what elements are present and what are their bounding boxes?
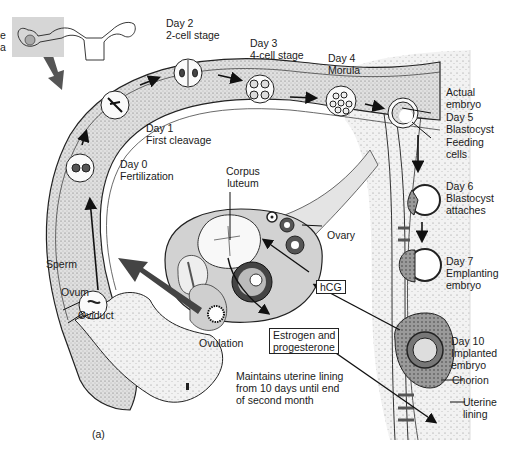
label-day4: Day 4Morula: [328, 52, 360, 76]
label-day10: Day 10Implanted embryo: [451, 335, 497, 371]
label-sperm: Sperm: [46, 258, 77, 270]
label-hcg: hCG: [316, 280, 346, 294]
diagram-canvas: e a Day 0Fertilization Day 1First cleava…: [0, 0, 511, 454]
label-chorion: Chorion: [452, 374, 489, 386]
label-day5: Day 5Blastocyst: [446, 111, 494, 135]
label-uterine-lining: Uterine lining: [463, 396, 497, 420]
label-day0: Day 0Fertilization: [120, 158, 174, 182]
label-day2: Day 22-cell stage: [166, 17, 220, 41]
left-edge-fragment-top: e: [0, 29, 6, 41]
label-oviduct: Oviduct: [78, 309, 114, 321]
label-ovary: Ovary: [327, 229, 355, 241]
label-actual-embryo: Actual embryo: [446, 86, 481, 110]
ovulated-ovum: [208, 306, 224, 322]
inset-uterus: [12, 17, 135, 60]
label-ovum: Ovum: [61, 286, 89, 298]
label-ovulation: Ovulation: [199, 337, 243, 349]
stray-mark: [186, 383, 189, 390]
left-edge-fragment-bottom: a: [0, 41, 6, 53]
label-maintains-note: Maintains uterine lining from 10 days un…: [236, 370, 343, 406]
label-day3: Day 34-cell stage: [250, 37, 304, 61]
ovary: [165, 209, 322, 330]
label-corpus-luteum: Corpus luteum: [226, 165, 260, 189]
label-day7: Day 7Emplanting embryo: [446, 255, 499, 291]
label-day6: Day 6Blastocyst attaches: [446, 180, 494, 216]
label-day1: Day 1First cleavage: [146, 122, 211, 146]
panel-label: (a): [92, 428, 105, 440]
label-estrogen-progesterone: Estrogen and progesterone: [269, 328, 339, 354]
label-feeding-cells: Feeding cells: [446, 136, 484, 160]
